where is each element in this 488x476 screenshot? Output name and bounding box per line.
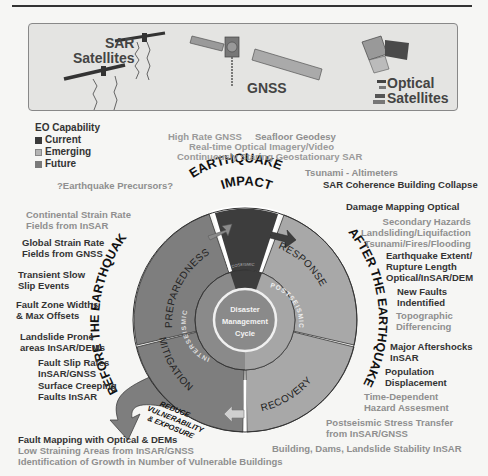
capability-transient-slip: Transient SlowSlip Events (18, 269, 85, 291)
capability-global-strain: Global Strain RateFields from GNSS (22, 237, 104, 259)
capability-building-dams-stability: Building, Dams, Landslide Stability InSA… (272, 443, 462, 454)
capability-earthquake-extent: Earthquake Extent/Rupture LengthOptical/… (386, 250, 473, 283)
capability-fault-zone-widths: Fault Zone Widths& Max Offsets (16, 299, 98, 321)
capability-fault-slip-rates: Fault Slip RatesInSAR/GNSS (38, 357, 109, 379)
svg-text:Cycle: Cycle (235, 329, 255, 338)
svg-text:Disaster: Disaster (230, 305, 260, 314)
capability-major-aftershocks: Major AftershocksInSAR (390, 341, 473, 363)
capability-population-displacement: PopulationDisplacement (385, 366, 447, 388)
capability-postseismic-stress: Postseismic Stress Transferfrom InSAR/GN… (326, 417, 453, 439)
capability-fault-mapping: Fault Mapping with Optical & DEMs (18, 434, 177, 445)
capability-continental-strain: Continental Strain RateFields from InSAR (26, 209, 131, 231)
capability-time-dependent-hazard: Time-DependentHazard Assesment (364, 391, 449, 413)
capability-topographic-differencing: TopographicDifferencing (396, 310, 453, 332)
svg-text:Management: Management (222, 317, 268, 326)
capability-surface-creeping: Surface CreepingFaults InSAR (38, 380, 117, 402)
capability-landslide-prone: Landslide Proneareas InSAR/DEMs (20, 331, 105, 353)
capability-geostationary-sar: Continuously Staring Geostationary SAR (177, 151, 362, 162)
capability-damage-mapping: Damage Mapping Optical (346, 201, 460, 212)
capability-vulnerable-buildings: Identification of Growth in Number of Vu… (18, 456, 283, 467)
capability-secondary-hazards: Secondary HazardsLandsliding/Liquifactio… (361, 216, 471, 249)
svg-text:IMPACT: IMPACT (219, 173, 274, 193)
capability-tsunami-altimeters: Tsunami - Altimeters (305, 167, 398, 178)
capability-earthquake-precursors: ?Earthquake Precursors? (57, 180, 173, 191)
capability-low-straining-areas: Low Straining Areas from InSAR/GNSS (18, 445, 194, 456)
capability-sar-coherence: SAR Coherence Building Collapse (323, 179, 478, 190)
capability-new-faults: New FaultsIndentified (397, 286, 447, 308)
